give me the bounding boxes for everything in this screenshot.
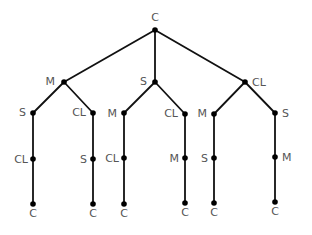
tree-node-label: M xyxy=(46,75,56,88)
tree-node-dot xyxy=(152,79,158,85)
tree-node-dot xyxy=(211,200,217,206)
tree-node-dot xyxy=(182,200,188,206)
tree-node-dot xyxy=(182,155,188,161)
tree-node-label: M xyxy=(108,107,118,120)
tree-node-label: CL xyxy=(14,153,29,166)
tree-node-dot xyxy=(61,79,67,85)
tree-node-label: C xyxy=(210,206,218,219)
tree-node-dot xyxy=(121,155,127,161)
tree-node-label: S xyxy=(282,107,289,120)
tree-node-dot xyxy=(272,110,278,116)
tree-node-dot xyxy=(121,110,127,116)
tree-node-dot xyxy=(272,154,278,160)
tree-node-label: M xyxy=(170,152,180,165)
tree-node-label: C xyxy=(89,207,97,220)
tree-node-label: C xyxy=(120,207,128,220)
tree-diagram: CMSCLSCLMCLMSCLSCLMSMCCCCCC xyxy=(0,0,312,235)
tree-node-dot xyxy=(30,201,36,207)
tree-node-label: S xyxy=(201,152,208,165)
nodes-layer xyxy=(30,27,278,207)
tree-node-label: CL xyxy=(72,106,87,119)
tree-node-label: CL xyxy=(164,107,179,120)
tree-node-label: C xyxy=(181,206,189,219)
tree-node-label: S xyxy=(80,153,87,166)
tree-node-label: M xyxy=(198,107,208,120)
tree-node-dot xyxy=(30,110,36,116)
tree-node-dot xyxy=(90,156,96,162)
tree-node-label: CL xyxy=(252,76,267,89)
tree-node-label: C xyxy=(271,205,279,218)
tree-node-dot xyxy=(211,155,217,161)
tree-node-dot xyxy=(121,201,127,207)
tree-edge xyxy=(155,30,245,82)
tree-node-dot xyxy=(211,111,217,117)
tree-node-dot xyxy=(90,201,96,207)
tree-node-label: C xyxy=(151,11,159,24)
tree-node-dot xyxy=(152,27,158,33)
tree-node-dot xyxy=(242,79,248,85)
tree-node-dot xyxy=(182,111,188,117)
tree-node-dot xyxy=(30,156,36,162)
tree-node-label: S xyxy=(19,106,26,119)
tree-node-label: CL xyxy=(105,152,120,165)
tree-node-dot xyxy=(90,110,96,116)
tree-diagram-svg: CMSCLSCLMCLMSCLSCLMSMCCCCCC xyxy=(0,0,312,235)
tree-edge xyxy=(214,82,245,114)
tree-node-dot xyxy=(272,199,278,205)
tree-node-label: S xyxy=(140,75,147,88)
edges-layer xyxy=(33,30,275,204)
labels-layer: CMSCLSCLMCLMSCLSCLMSMCCCCCC xyxy=(14,11,291,220)
tree-node-label: C xyxy=(29,207,37,220)
tree-node-label: M xyxy=(282,151,292,164)
